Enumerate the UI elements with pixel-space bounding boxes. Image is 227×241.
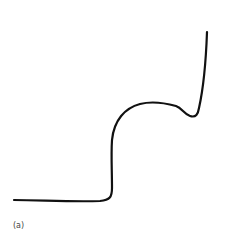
curve-line (14, 32, 207, 201)
curve-plot (0, 0, 227, 241)
figure-caption: (a) (13, 222, 24, 230)
figure: (a) (0, 0, 227, 241)
